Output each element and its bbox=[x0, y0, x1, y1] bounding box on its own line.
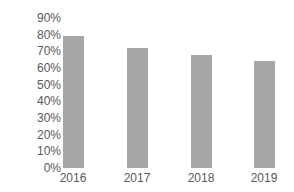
y-tick-label: 10% bbox=[11, 145, 61, 157]
x-tick-label: 2017 bbox=[117, 171, 157, 185]
bar-chart: 0% 10% 20% 30% 40% 50% 60% 70% 80% 90% 2… bbox=[0, 0, 294, 192]
x-tick-label: 2019 bbox=[244, 171, 284, 185]
bar-2018 bbox=[191, 55, 212, 168]
y-tick-label: 40% bbox=[11, 95, 61, 107]
bar-2016 bbox=[63, 36, 84, 168]
bar-2019 bbox=[254, 61, 275, 168]
y-tick-label: 90% bbox=[11, 12, 61, 24]
x-tick-label: 2016 bbox=[53, 171, 93, 185]
y-tick-label: 70% bbox=[11, 45, 61, 57]
x-tick-label: 2018 bbox=[181, 171, 221, 185]
y-tick-label: 30% bbox=[11, 112, 61, 124]
bar-2017 bbox=[127, 48, 148, 168]
y-tick-label: 60% bbox=[11, 62, 61, 74]
y-tick-label: 80% bbox=[11, 29, 61, 41]
y-tick-label: 50% bbox=[11, 79, 61, 91]
y-tick-label: 20% bbox=[11, 129, 61, 141]
